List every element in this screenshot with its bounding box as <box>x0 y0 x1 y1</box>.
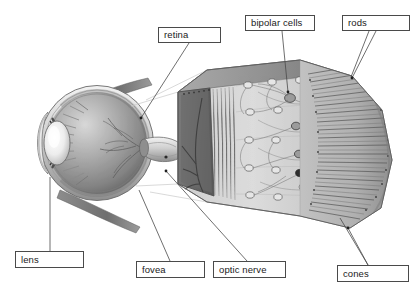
label-fovea[interactable]: fovea <box>136 261 205 278</box>
label-bipolar-cells[interactable]: bipolar cells <box>245 15 315 31</box>
rods-leader <box>351 31 369 77</box>
label-rods-text: rods <box>348 18 367 28</box>
fovea-leader <box>139 190 170 261</box>
cones-anchor <box>347 227 350 230</box>
label-lens[interactable]: lens <box>15 251 84 268</box>
label-cones-text: cones <box>343 269 369 279</box>
diagram-canvas: retina bipolar cells rods lens fovea opt… <box>0 0 419 299</box>
label-fovea-text: fovea <box>142 265 166 275</box>
label-lens-text: lens <box>21 255 39 265</box>
bipolar-anchor <box>287 91 290 94</box>
optic-nerve-anchor <box>165 170 168 173</box>
label-bipolar-cells-text: bipolar cells <box>251 18 302 28</box>
label-optic-nerve-text: optic nerve <box>219 265 267 275</box>
label-retina-text: retina <box>164 30 188 40</box>
retina-leader <box>141 43 189 118</box>
label-cones[interactable]: cones <box>337 265 409 282</box>
rods-leader-2 <box>352 31 376 78</box>
label-retina[interactable]: retina <box>158 27 221 43</box>
retina-anchor <box>140 117 143 120</box>
rods-anchor <box>351 77 354 80</box>
optic-nerve-leader <box>166 171 247 261</box>
label-optic-nerve[interactable]: optic nerve <box>213 261 286 278</box>
bipolar-leader <box>282 31 288 92</box>
cones-leader-2 <box>340 218 368 265</box>
label-rods[interactable]: rods <box>342 15 410 31</box>
